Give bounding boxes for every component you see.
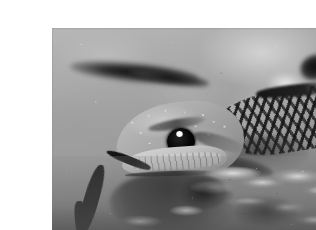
- screenshot-canvas: Rattlesnake head close-up: [0, 0, 316, 230]
- rattlesnake-photograph: Rattlesnake head close-up: [52, 28, 316, 230]
- bottom-vignette: [52, 205, 316, 230]
